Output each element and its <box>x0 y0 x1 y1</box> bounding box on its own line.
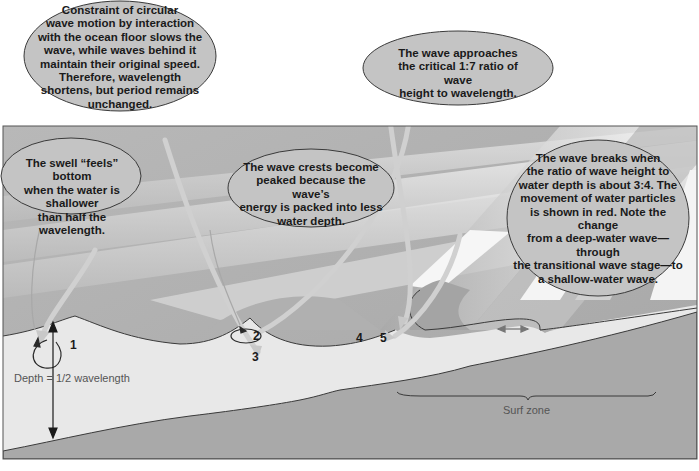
callout-line: the ratio of wave height to <box>512 165 684 178</box>
callout-line: the critical 1:7 ratio of wave <box>383 60 533 87</box>
callout-line: water depth is about 3:4. The <box>512 179 684 192</box>
stage-number-1: 1 <box>70 338 77 352</box>
callout-line: Constraint of circular <box>34 4 206 17</box>
callout-line: water depth. <box>238 215 384 228</box>
callout-line: is shown in red. Note the change <box>512 206 684 233</box>
callout-line: from a deep-water wave—through <box>512 232 684 259</box>
callout-line: a shallow-water wave. <box>512 273 684 286</box>
callout-constraint: Constraint of circular wave motion by in… <box>34 4 206 111</box>
callout-line: Therefore, wavelength <box>34 71 206 84</box>
surf-zone-label: Surf zone <box>503 404 550 416</box>
callout-line: movement of water particles <box>512 192 684 205</box>
callout-crests: The wave crests become peaked because th… <box>238 161 384 228</box>
callout-line: maintain their original speed. <box>34 58 206 71</box>
callout-line: The wave crests become <box>238 161 384 174</box>
callout-line: energy is packed into less <box>238 201 384 214</box>
callout-breaks: The wave breaks when the ratio of wave h… <box>512 152 684 286</box>
wave-breaking-diagram: Constraint of circular wave motion by in… <box>0 0 699 471</box>
callout-line: The wave approaches <box>383 47 533 60</box>
stage-number-4: 4 <box>356 331 363 345</box>
stage-number-2: 2 <box>253 329 260 343</box>
callout-line: wave motion by interaction <box>34 17 206 30</box>
callout-line: height to wavelength. <box>383 87 533 100</box>
callout-approaches: The wave approaches the critical 1:7 rat… <box>383 47 533 101</box>
stage-number-3: 3 <box>252 350 259 364</box>
callout-line: The wave breaks when <box>512 152 684 165</box>
callout-line: with the ocean floor slows the <box>34 31 206 44</box>
callout-line: shortens, but period remains <box>34 84 206 97</box>
callout-line: than half the wavelength. <box>6 211 138 238</box>
callout-line: The swell “feels” bottom <box>6 157 138 184</box>
callout-swell: The swell “feels” bottom when the water … <box>6 157 138 237</box>
callout-line: the transitional wave stage—to <box>512 259 684 272</box>
callout-line: wave, while waves behind it <box>34 44 206 57</box>
callout-line: when the water is shallower <box>6 184 138 211</box>
callout-line: peaked because the wave’s <box>238 174 384 201</box>
callout-line: unchanged. <box>34 98 206 111</box>
stage-number-5: 5 <box>380 331 387 345</box>
depth-label: Depth = 1/2 wavelength <box>14 372 130 384</box>
